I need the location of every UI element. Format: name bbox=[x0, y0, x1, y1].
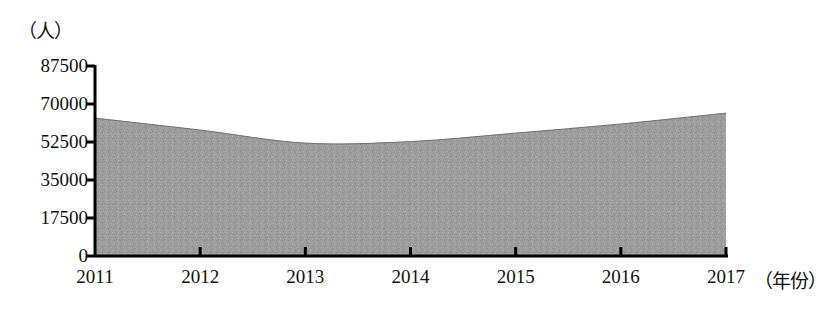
x-tick-label: 2013 bbox=[286, 266, 324, 288]
x-tick-label: 2011 bbox=[76, 266, 113, 288]
area-series bbox=[95, 113, 726, 256]
x-tick-label: 2017 bbox=[707, 266, 745, 288]
x-tick-label: 2015 bbox=[497, 266, 535, 288]
x-axis-unit-label: （年份） bbox=[754, 266, 826, 293]
x-tick-label: 2012 bbox=[181, 266, 219, 288]
x-tick-label: 2014 bbox=[392, 266, 430, 288]
area-chart: （人） 01750035000525007000087500 bbox=[0, 0, 837, 323]
x-tick-label: 2016 bbox=[602, 266, 640, 288]
